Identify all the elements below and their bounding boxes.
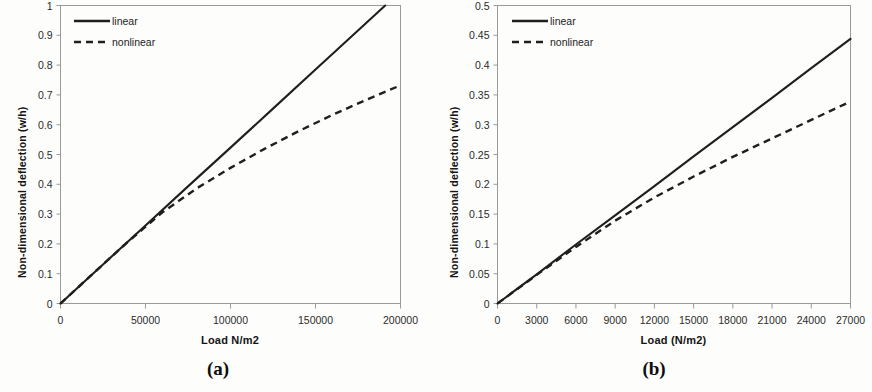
x-tick-marks-a	[61, 304, 401, 309]
legend-label-nonlinear-b: nonlinear	[550, 36, 593, 48]
legend-label-nonlinear-a: nonlinear	[112, 36, 155, 48]
series-line-nonlinear-a	[61, 85, 401, 303]
chart-panel-a: Non-dimensional deflection (w/h) 00.10.2…	[0, 0, 436, 392]
y-tick-marks-a	[57, 6, 61, 304]
legend-label-linear-a: linear	[112, 15, 138, 27]
x-tick-marks-b	[498, 304, 851, 309]
legend-label-linear-b: linear	[550, 15, 576, 27]
series-line-nonlinear-b	[498, 101, 851, 303]
x-axis-title-a: Load N/m2	[60, 334, 400, 346]
subfigure-caption-b: (b)	[436, 358, 872, 380]
plot-frame-b	[498, 6, 851, 304]
plot-frame-a	[61, 6, 401, 304]
y-tick-marks-b	[494, 6, 498, 304]
x-axis-title-b: Load (N/m2)	[497, 334, 850, 346]
figure-container: Non-dimensional deflection (w/h) 00.10.2…	[0, 0, 872, 392]
chart-panel-b: Non-dimensional deflection (w/h) 00.050.…	[436, 0, 872, 392]
subfigure-caption-a: (a)	[0, 358, 436, 380]
